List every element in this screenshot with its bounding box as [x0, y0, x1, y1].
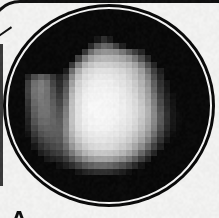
figure-panel: A	[0, 0, 219, 218]
panel-label: A	[12, 209, 26, 218]
panel-frame-border	[0, 0, 219, 218]
